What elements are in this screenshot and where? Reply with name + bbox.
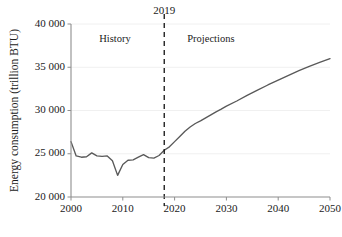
energy-consumption-chart: 20 00025 00030 00035 00040 000 200020102… <box>0 0 342 237</box>
y-tick-label-40000: 40 000 <box>35 17 66 29</box>
projections-label: Projections <box>187 33 234 44</box>
x-tick-label-2020: 2020 <box>164 202 187 214</box>
y-tick-label-25000: 25 000 <box>35 146 66 158</box>
y-tick-label-20000: 20 000 <box>35 190 66 202</box>
x-tick-label-2050: 2050 <box>319 202 342 214</box>
x-tick-label-2000: 2000 <box>60 202 83 214</box>
y-tick-label-30000: 30 000 <box>35 103 66 115</box>
history-label: History <box>99 33 131 44</box>
x-tick-label-2040: 2040 <box>267 202 290 214</box>
divider-label: 2019 <box>153 4 176 16</box>
y-tick-label-35000: 35 000 <box>35 60 66 72</box>
y-axis-title: Energy consumption (trillion BTU) <box>8 29 21 192</box>
x-tick-label-2010: 2010 <box>112 202 135 214</box>
x-tick-label-2030: 2030 <box>215 202 238 214</box>
